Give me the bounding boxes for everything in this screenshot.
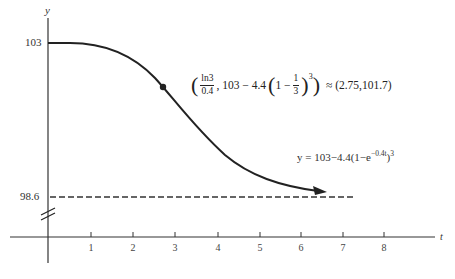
- curve-equation: y = 103−4.4(1−e−0.4t)3: [297, 149, 394, 163]
- arrow-head-icon: [313, 186, 327, 195]
- x-tick-label: 1: [89, 242, 94, 253]
- x-axis-label: t: [440, 231, 443, 242]
- x-tick-label: 2: [131, 242, 136, 253]
- y-tick-98-6: 98.6: [20, 190, 39, 202]
- x-tick-label: 7: [341, 242, 346, 253]
- x-tick-label: 5: [258, 242, 263, 253]
- x-tick-label: 6: [299, 242, 304, 253]
- fraction-ln3-over-0-4: ln3 0.4: [200, 74, 214, 96]
- x-ticks: [91, 232, 384, 237]
- highlighted-point: [160, 84, 166, 90]
- curve-line: [48, 43, 318, 191]
- x-tick-label: 4: [216, 242, 221, 253]
- fraction-one-third: 1 3: [293, 74, 300, 96]
- chart-canvas: [0, 0, 455, 279]
- x-tick-label: 8: [382, 242, 387, 253]
- x-tick-label: 3: [173, 242, 178, 253]
- y-axis-label: y: [45, 4, 50, 16]
- point-annotation: ( ln3 0.4 , 103 − 4.4 ( 1 − 1 3 ) 3 ) ≈ …: [191, 74, 392, 96]
- y-tick-103: 103: [25, 36, 42, 48]
